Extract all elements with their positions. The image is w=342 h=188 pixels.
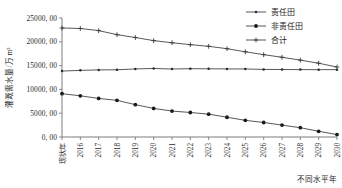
x-tick-label: 2023 xyxy=(205,143,213,158)
y-tick-label: 25000, 00 xyxy=(27,14,58,23)
series-line-责任田 xyxy=(62,68,337,71)
legend-label-非责任田: 非责任田 xyxy=(271,21,303,31)
data-point-责任田 xyxy=(262,68,265,71)
x-tick-label: 2016 xyxy=(77,143,85,158)
y-tick-label: 10000, 00 xyxy=(27,85,58,94)
data-point-非责任田 xyxy=(207,112,211,116)
chart-figure: 0, 005000, 0010000, 0015000, 0020000, 00… xyxy=(0,0,342,188)
x-tick-label: 2025 xyxy=(242,143,250,158)
data-point-责任田 xyxy=(152,67,155,70)
legend-label-责任田: 责任田 xyxy=(271,7,295,17)
data-point-非责任田 xyxy=(78,94,82,98)
legend-marker-非责任田 xyxy=(254,24,258,28)
x-tick-label: 2020 xyxy=(150,143,158,158)
x-tick-label: 2029 xyxy=(315,143,323,158)
data-point-非责任田 xyxy=(243,118,247,122)
series-line-非责任田 xyxy=(62,94,337,135)
x-tick-label: 2019 xyxy=(132,143,140,158)
data-point-责任田 xyxy=(207,68,210,71)
data-point-责任田 xyxy=(189,67,192,70)
data-point-责任田 xyxy=(299,68,302,71)
data-point-责任田 xyxy=(134,68,137,71)
data-point-责任田 xyxy=(79,69,82,72)
data-point-非责任田 xyxy=(97,97,101,101)
y-tick-label: 20000, 00 xyxy=(27,37,58,46)
data-point-非责任田 xyxy=(280,123,284,127)
data-point-非责任田 xyxy=(133,103,137,107)
x-tick-label: 2028 xyxy=(297,143,305,158)
data-point-责任田 xyxy=(116,69,119,72)
data-point-责任田 xyxy=(97,69,100,72)
x-tick-label: 2024 xyxy=(224,143,232,158)
x-tick-label: 2021 xyxy=(169,143,177,158)
data-point-非责任田 xyxy=(335,133,339,137)
data-point-非责任田 xyxy=(225,115,229,119)
data-point-非责任田 xyxy=(60,92,64,96)
x-tick-label: 2026 xyxy=(260,143,268,158)
data-point-非责任田 xyxy=(115,98,119,102)
legend-marker-责任田 xyxy=(255,11,258,14)
data-point-非责任田 xyxy=(188,111,192,115)
legend-label-合计: 合计 xyxy=(271,35,287,45)
line-chart: 0, 005000, 0010000, 0015000, 0020000, 00… xyxy=(0,0,342,188)
data-point-非责任田 xyxy=(262,121,266,125)
data-point-责任田 xyxy=(317,68,320,71)
data-point-非责任田 xyxy=(298,126,302,130)
data-point-责任田 xyxy=(281,68,284,71)
series-line-合计 xyxy=(62,28,337,67)
data-point-责任田 xyxy=(171,68,174,71)
x-tick-label: 2017 xyxy=(95,143,103,158)
data-point-责任田 xyxy=(244,68,247,71)
x-tick-label: 2022 xyxy=(187,143,195,158)
y-tick-label: 0, 00 xyxy=(42,133,57,142)
y-axis-title: 灌溉需水量/万 m³ xyxy=(4,47,14,108)
x-tick-label: 现状年 xyxy=(58,143,67,164)
x-tick-label: 2027 xyxy=(279,143,287,158)
data-point-非责任田 xyxy=(152,107,156,111)
x-tick-label: 2018 xyxy=(114,143,122,158)
y-tick-label: 15000, 00 xyxy=(27,61,58,70)
data-point-非责任田 xyxy=(170,109,174,113)
data-point-责任田 xyxy=(61,70,64,73)
x-tick-label: 2030 xyxy=(334,143,342,158)
data-point-非责任田 xyxy=(317,129,321,133)
y-tick-label: 5000, 00 xyxy=(30,109,57,118)
x-axis-title: 不同水平年 xyxy=(297,174,337,184)
data-point-责任田 xyxy=(226,68,229,71)
